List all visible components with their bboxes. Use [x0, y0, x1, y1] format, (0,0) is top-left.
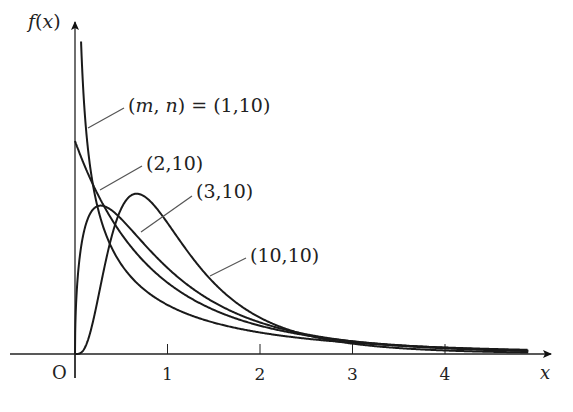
series-label-1-10: (m, n) = (1,10): [128, 96, 270, 115]
x-tick-label: 1: [162, 364, 173, 384]
series-label-3-10: (3,10): [196, 182, 253, 201]
curve-1-10: [81, 42, 527, 350]
origin-label: O: [52, 364, 67, 382]
leader-line: [210, 258, 246, 276]
f-distribution-chart: [0, 0, 573, 412]
curves: [75, 42, 528, 354]
leader-line: [88, 108, 124, 128]
x-tick-label: 2: [255, 364, 266, 384]
curve-10-10: [75, 194, 528, 354]
x-tick-label: 3: [347, 364, 358, 384]
leader-line: [141, 196, 192, 232]
leader-line: [100, 166, 142, 190]
y-axis-label: f(x): [28, 12, 61, 31]
series-label-10-10: (10,10): [250, 246, 319, 265]
x-tick-label: 4: [440, 364, 451, 384]
x-axis-label: x: [540, 364, 550, 382]
curve-3-10: [75, 206, 528, 354]
series-label-2-10: (2,10): [146, 154, 203, 173]
